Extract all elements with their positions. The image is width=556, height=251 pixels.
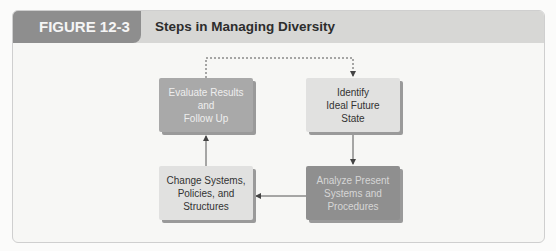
step-identify-ideal-state: Identify Ideal Future State <box>306 78 400 132</box>
dashed-arrow-evaluate-to-identify <box>206 58 353 78</box>
connector-arrows <box>0 0 556 251</box>
step-label: Identify Ideal Future State <box>326 86 379 125</box>
step-analyze-present-systems: Analyze Present Systems and Procedures <box>306 166 400 220</box>
step-label: Change Systems, Policies, and Structures <box>167 174 246 213</box>
step-label: Analyze Present Systems and Procedures <box>317 174 390 213</box>
step-change-systems: Change Systems, Policies, and Structures <box>159 166 253 220</box>
step-evaluate-results: Evaluate Results and Follow Up <box>159 78 253 132</box>
step-label: Evaluate Results and Follow Up <box>168 86 243 125</box>
